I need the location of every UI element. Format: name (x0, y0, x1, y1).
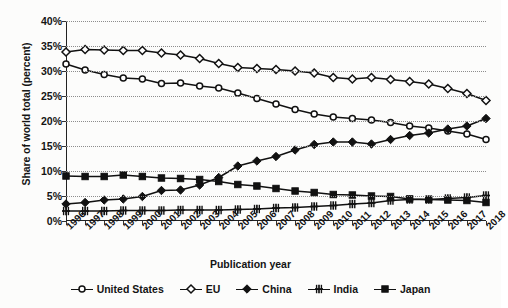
legend-label: Japan (400, 283, 430, 295)
y-axis-tick-mark (62, 71, 66, 72)
gridline (66, 21, 486, 22)
legend-marker-filled-square-icon (374, 284, 396, 295)
data-point-open-diamond (348, 75, 356, 83)
data-point-filled-diamond (253, 157, 261, 165)
y-axis-tick-label: 0% (47, 215, 62, 227)
data-point-filled-square (158, 175, 164, 181)
data-point-open-diamond (444, 85, 452, 93)
data-point-open-diamond (177, 51, 185, 59)
data-point-plus (367, 199, 375, 207)
legend-item-japan[interactable]: Japan (374, 283, 430, 295)
data-point-open-circle (158, 81, 164, 87)
legend-marker-open-circle-icon (71, 284, 93, 295)
data-point-filled-square (101, 173, 107, 179)
data-point-plus (315, 285, 323, 293)
legend-marker-filled-diamond-icon (236, 284, 258, 295)
series-japan (63, 172, 489, 206)
data-point-open-diamond (138, 47, 146, 55)
gridline (66, 121, 486, 122)
legend-item-united-states[interactable]: United States (71, 283, 164, 295)
gridline (66, 46, 486, 47)
data-point-open-diamond (100, 46, 108, 54)
data-point-open-circle (273, 101, 279, 107)
x-axis-tick-label: 2018 (484, 208, 508, 232)
y-axis-tick-label: 15% (41, 140, 62, 152)
data-point-open-diamond (367, 74, 375, 82)
series-line (66, 50, 486, 101)
y-axis-tick-label: 40% (41, 15, 62, 27)
data-point-plus (62, 207, 70, 215)
data-point-filled-square (382, 286, 388, 292)
data-point-filled-square (273, 185, 279, 191)
data-point-open-circle (197, 83, 203, 89)
data-point-open-diamond (406, 78, 414, 86)
data-point-filled-diamond (463, 122, 471, 130)
y-axis-tick-label: 5% (47, 190, 62, 202)
legend-label: EU (206, 283, 221, 295)
data-point-filled-diamond (272, 152, 280, 160)
data-point-filled-square (196, 176, 202, 182)
legend-item-india[interactable]: India (308, 283, 359, 295)
data-point-open-circle (407, 123, 413, 129)
data-point-filled-diamond (176, 186, 184, 194)
data-point-filled-square (63, 173, 69, 179)
gridline (66, 146, 486, 147)
legend-label: India (334, 283, 359, 295)
data-point-open-diamond (196, 55, 204, 63)
data-point-open-diamond (425, 80, 433, 88)
y-axis-tick-mark (62, 96, 66, 97)
data-point-filled-diamond (157, 186, 165, 194)
data-point-filled-square (177, 175, 183, 181)
data-point-open-circle (101, 72, 107, 78)
y-axis-tick-mark (62, 46, 66, 47)
y-axis-tick-label: 35% (41, 40, 62, 52)
plot-area (66, 21, 486, 221)
legend-label: United States (97, 283, 164, 295)
data-point-filled-square (82, 173, 88, 179)
data-point-open-diamond (482, 97, 490, 105)
y-axis-tick-mark (62, 146, 66, 147)
data-point-open-diamond (215, 60, 223, 68)
gridline (66, 196, 486, 197)
y-axis-tick-mark (62, 21, 66, 22)
data-point-filled-square (139, 173, 145, 179)
legend-item-china[interactable]: China (236, 283, 291, 295)
data-point-open-circle (120, 75, 126, 81)
data-point-open-diamond (157, 49, 165, 57)
data-point-open-circle (311, 111, 317, 117)
data-point-filled-diamond (243, 285, 251, 293)
y-axis-tick-label: 10% (41, 165, 62, 177)
data-point-open-circle (216, 85, 222, 91)
gridline (66, 171, 486, 172)
gridline (66, 96, 486, 97)
data-point-open-circle (292, 107, 298, 113)
legend-marker-plus-icon (308, 284, 330, 295)
legend-item-eu[interactable]: EU (180, 283, 221, 295)
data-point-open-circle (139, 76, 145, 82)
data-point-open-diamond (272, 66, 280, 74)
y-axis-tick-mark (62, 171, 66, 172)
data-point-filled-square (120, 172, 126, 178)
data-point-plus (310, 202, 318, 210)
data-point-filled-diamond (405, 131, 413, 139)
data-point-filled-diamond (81, 198, 89, 206)
x-axis-title: Publication year (0, 258, 501, 270)
data-point-filled-square (445, 197, 451, 203)
data-point-filled-diamond (310, 140, 318, 148)
data-point-open-circle (330, 114, 336, 120)
data-point-filled-diamond (100, 196, 108, 204)
data-point-filled-square (464, 197, 470, 203)
chart-legend: United StatesEUChinaIndiaJapan (0, 283, 501, 295)
data-point-filled-square (216, 178, 222, 184)
data-point-open-diamond (62, 48, 70, 56)
y-axis-tick-label: 20% (41, 115, 62, 127)
data-point-open-circle (178, 80, 184, 86)
data-point-open-circle (368, 117, 374, 123)
y-axis-tick-label: 25% (41, 90, 62, 102)
y-axis-tick-label: 30% (41, 65, 62, 77)
data-point-open-diamond (119, 47, 127, 55)
data-point-filled-square (235, 181, 241, 187)
y-axis-tick-mark (62, 196, 66, 197)
y-axis-tick-mark (62, 121, 66, 122)
